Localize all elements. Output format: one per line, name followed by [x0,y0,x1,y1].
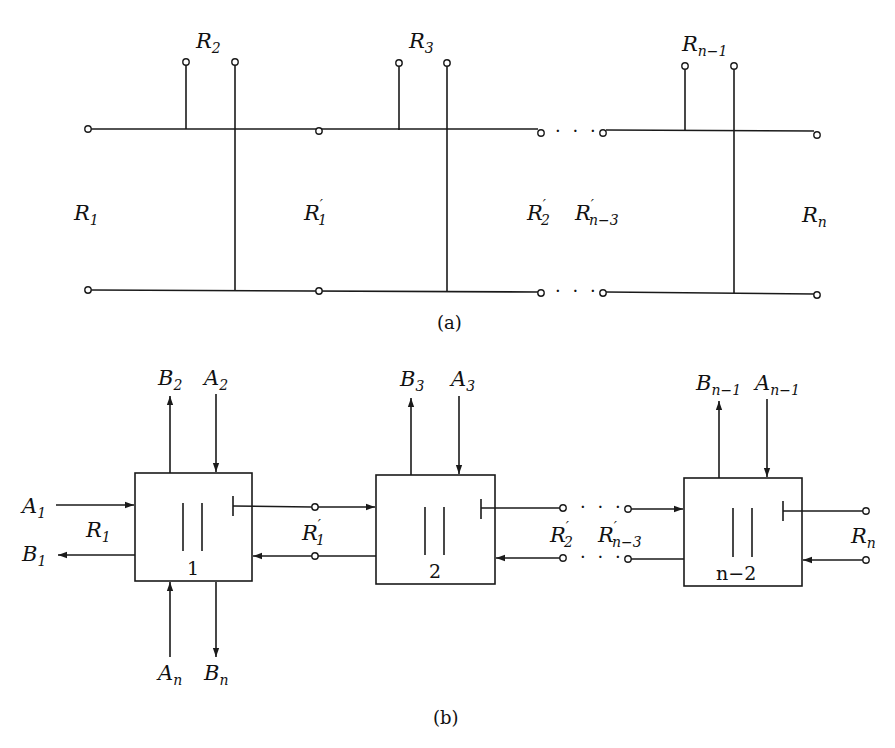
terminal [396,60,402,66]
block-number: n−2 [716,562,756,584]
label-rn: Rn [850,524,876,551]
terminal [312,553,318,559]
terminal [560,555,566,561]
label-r1: R1 [73,201,99,228]
caption-b: (b) [433,707,459,728]
label-r2-prime: R′2 [526,197,550,228]
terminal [316,288,322,294]
caption-a: (a) [437,312,462,333]
label-bn-1: Bn−1 [695,371,741,398]
out-line-upper [233,506,312,507]
terminal [85,126,91,132]
label-b3: B3 [399,367,424,394]
label-b1: B1 [21,542,46,569]
label-r2-prime: R′2 [549,519,573,550]
terminal [312,504,318,510]
label-an-1: An−1 [753,371,800,398]
block-number: 1 [187,557,199,579]
terminal [863,508,869,514]
figure-b: 1 A1 R1 B1 B2 A2 An Bn R′1 [20,366,876,728]
ellipsis: · · · [580,496,624,517]
terminal [183,59,189,65]
terminal [560,505,566,511]
figure-a: · · · · · · R2 R3 Rn−1 R1 R′1 R′2 R′n−3 … [73,29,827,333]
label-r1-prime: R′1 [301,517,325,548]
label-r1: R1 [85,518,111,545]
ellipsis: · · · [555,280,599,301]
ellipsis: · · · [555,120,599,141]
terminal [232,59,238,65]
terminal [316,128,322,134]
terminal [85,287,91,293]
label-a2: A2 [202,366,228,393]
terminal [625,556,631,562]
bottom-rail-right [606,292,814,294]
terminal [814,292,820,298]
terminal [814,132,820,138]
label-rn-1: Rn−1 [681,32,727,59]
label-r2: R2 [195,29,221,56]
terminal [682,63,688,69]
block-number: 2 [429,560,441,582]
label-b2: B2 [157,366,182,393]
terminal [538,130,544,136]
label-rn: Rn [801,203,827,230]
terminal [625,506,631,512]
label-a1: A1 [20,494,46,521]
block-n-2: n−2 Bn−1 An−1 Rn [625,371,876,586]
label-bn: Bn [203,661,228,688]
terminal [600,130,606,136]
label-an: An [156,661,182,688]
terminal [444,60,450,66]
terminal [863,557,869,563]
terminal [538,290,544,296]
terminal [600,290,606,296]
label-rn-3-prime: R′n−3 [574,197,619,228]
terminal [731,63,737,69]
label-r3: R3 [408,29,434,56]
bottom-rail-left [91,290,538,292]
label-a3: A3 [449,367,475,394]
label-r1-prime: R′1 [303,197,327,228]
ellipsis: · · · [580,546,624,567]
network-diagram: · · · · · · R2 R3 Rn−1 R1 R′1 R′2 R′n−3 … [0,0,895,748]
top-rail-right [606,130,814,131]
block-1: 1 A1 R1 B1 B2 A2 An Bn R′1 [20,366,325,688]
